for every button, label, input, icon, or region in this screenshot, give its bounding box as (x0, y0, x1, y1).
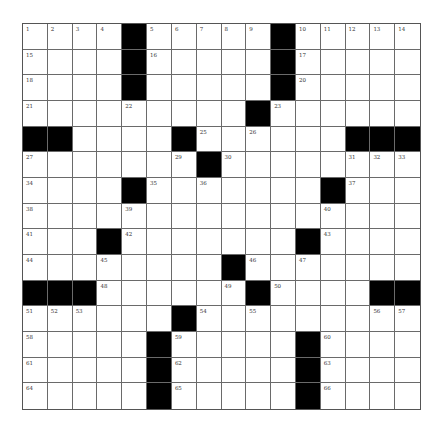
letter-cell[interactable] (370, 204, 395, 230)
letter-cell[interactable] (73, 152, 98, 178)
letter-cell[interactable] (222, 50, 247, 76)
letter-cell[interactable]: 50 (271, 281, 296, 307)
letter-cell[interactable] (48, 152, 73, 178)
letter-cell[interactable] (222, 229, 247, 255)
letter-cell[interactable] (395, 204, 420, 230)
letter-cell[interactable] (122, 281, 147, 307)
letter-cell[interactable]: 33 (395, 152, 420, 178)
letter-cell[interactable]: 26 (246, 127, 271, 153)
letter-cell[interactable] (48, 204, 73, 230)
letter-cell[interactable] (147, 229, 172, 255)
letter-cell[interactable] (395, 255, 420, 281)
letter-cell[interactable] (321, 50, 346, 76)
letter-cell[interactable] (271, 383, 296, 409)
letter-cell[interactable]: 65 (172, 383, 197, 409)
letter-cell[interactable]: 53 (73, 306, 98, 332)
letter-cell[interactable] (346, 332, 371, 358)
letter-cell[interactable] (122, 255, 147, 281)
letter-cell[interactable]: 5 (147, 24, 172, 50)
letter-cell[interactable] (370, 101, 395, 127)
letter-cell[interactable] (73, 75, 98, 101)
letter-cell[interactable]: 47 (296, 255, 321, 281)
letter-cell[interactable]: 55 (246, 306, 271, 332)
letter-cell[interactable] (246, 204, 271, 230)
letter-cell[interactable]: 12 (346, 24, 371, 50)
letter-cell[interactable] (73, 127, 98, 153)
letter-cell[interactable] (73, 50, 98, 76)
letter-cell[interactable] (222, 75, 247, 101)
letter-cell[interactable]: 16 (147, 50, 172, 76)
letter-cell[interactable] (147, 306, 172, 332)
letter-cell[interactable] (73, 178, 98, 204)
letter-cell[interactable]: 56 (370, 306, 395, 332)
letter-cell[interactable] (395, 50, 420, 76)
letter-cell[interactable] (172, 229, 197, 255)
letter-cell[interactable]: 31 (346, 152, 371, 178)
letter-cell[interactable]: 59 (172, 332, 197, 358)
letter-cell[interactable] (197, 75, 222, 101)
letter-cell[interactable] (271, 178, 296, 204)
letter-cell[interactable] (172, 281, 197, 307)
letter-cell[interactable] (73, 383, 98, 409)
letter-cell[interactable] (321, 281, 346, 307)
letter-cell[interactable]: 40 (321, 204, 346, 230)
letter-cell[interactable] (197, 204, 222, 230)
letter-cell[interactable] (370, 229, 395, 255)
letter-cell[interactable] (197, 281, 222, 307)
letter-cell[interactable]: 20 (296, 75, 321, 101)
letter-cell[interactable] (147, 101, 172, 127)
letter-cell[interactable] (346, 383, 371, 409)
letter-cell[interactable] (222, 204, 247, 230)
letter-cell[interactable] (97, 127, 122, 153)
letter-cell[interactable] (296, 281, 321, 307)
letter-cell[interactable] (222, 101, 247, 127)
letter-cell[interactable] (73, 229, 98, 255)
letter-cell[interactable] (172, 75, 197, 101)
letter-cell[interactable] (197, 255, 222, 281)
letter-cell[interactable] (172, 50, 197, 76)
letter-cell[interactable] (321, 152, 346, 178)
letter-cell[interactable] (321, 306, 346, 332)
letter-cell[interactable] (97, 306, 122, 332)
letter-cell[interactable]: 7 (197, 24, 222, 50)
letter-cell[interactable] (246, 358, 271, 384)
letter-cell[interactable] (73, 255, 98, 281)
letter-cell[interactable]: 2 (48, 24, 73, 50)
letter-cell[interactable] (370, 332, 395, 358)
letter-cell[interactable] (97, 152, 122, 178)
letter-cell[interactable]: 61 (23, 358, 48, 384)
letter-cell[interactable] (346, 306, 371, 332)
letter-cell[interactable] (48, 178, 73, 204)
letter-cell[interactable] (321, 127, 346, 153)
letter-cell[interactable] (197, 358, 222, 384)
letter-cell[interactable] (296, 178, 321, 204)
letter-cell[interactable] (97, 332, 122, 358)
letter-cell[interactable] (395, 383, 420, 409)
letter-cell[interactable] (346, 50, 371, 76)
letter-cell[interactable]: 32 (370, 152, 395, 178)
letter-cell[interactable]: 11 (321, 24, 346, 50)
letter-cell[interactable] (97, 50, 122, 76)
letter-cell[interactable]: 36 (197, 178, 222, 204)
letter-cell[interactable] (296, 152, 321, 178)
letter-cell[interactable] (122, 332, 147, 358)
letter-cell[interactable]: 52 (48, 306, 73, 332)
letter-cell[interactable]: 49 (222, 281, 247, 307)
letter-cell[interactable] (346, 281, 371, 307)
letter-cell[interactable]: 25 (197, 127, 222, 153)
letter-cell[interactable] (122, 127, 147, 153)
letter-cell[interactable] (122, 358, 147, 384)
letter-cell[interactable] (271, 152, 296, 178)
letter-cell[interactable]: 37 (346, 178, 371, 204)
letter-cell[interactable] (346, 229, 371, 255)
letter-cell[interactable] (122, 152, 147, 178)
letter-cell[interactable] (246, 152, 271, 178)
letter-cell[interactable]: 38 (23, 204, 48, 230)
letter-cell[interactable]: 60 (321, 332, 346, 358)
letter-cell[interactable]: 17 (296, 50, 321, 76)
letter-cell[interactable] (172, 204, 197, 230)
letter-cell[interactable] (222, 358, 247, 384)
letter-cell[interactable]: 63 (321, 358, 346, 384)
letter-cell[interactable] (222, 178, 247, 204)
letter-cell[interactable]: 8 (222, 24, 247, 50)
